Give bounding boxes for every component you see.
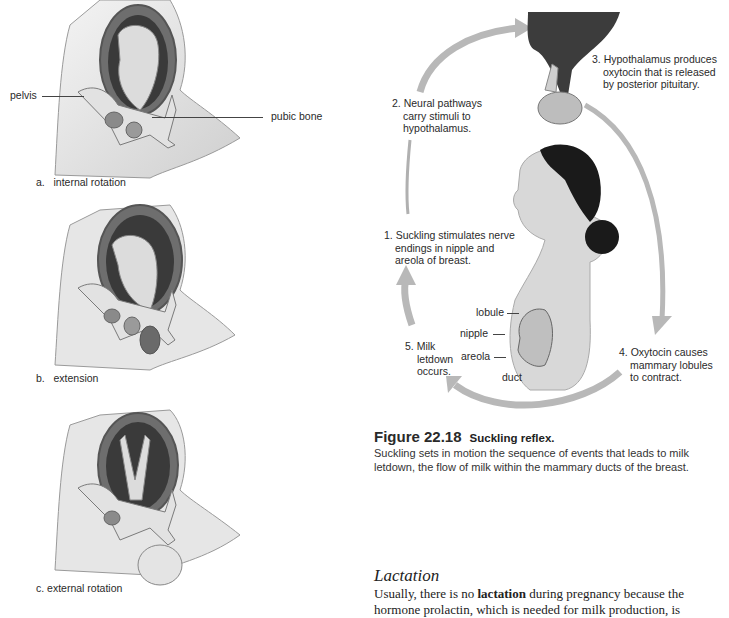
figure-caption: Figure 22.18Suckling reflex. Suckling se… [374,428,724,474]
figure-description-line-2: letdown, the flow of milk within the mam… [374,460,724,474]
section-paragraph: Usually, there is no lactation during pr… [374,586,729,602]
label-areola: areola [461,350,490,363]
lactation-section: Lactation Usually, there is no lactation… [374,566,729,618]
leader-line-lobule [507,313,519,314]
step-1-text: 1. Suckling stimulates nerve endings in … [384,229,515,267]
arrow-to-hypothalamus [420,28,520,92]
pituitary-illustration [538,92,582,124]
figure-number: Figure 22.18 [374,428,462,445]
label-duct: duct [502,371,522,384]
step-5-text: 5. Milk letdown occurs. [405,340,453,378]
term-lactation: lactation [478,586,526,601]
step-3-text: 3. Hypothalamus produces oxytocin that i… [592,53,717,91]
figure-title-line: Figure 22.18Suckling reflex. [374,428,724,446]
leader-line-nipple [493,334,505,335]
section-heading: Lactation [374,566,729,586]
woman-illustration [510,145,619,390]
step-4-text: 4. Oxytocin causes mammary lobules to co… [619,346,713,384]
figure-description-line-1: Suckling sets in motion the sequence of … [374,446,724,460]
section-paragraph-line-2: hormone prolactin, which is needed for m… [374,602,729,618]
step-2-text: 2. Neural pathways carry stimuli to hypo… [392,97,482,135]
arrow-to-step1 [405,278,412,325]
label-nipple: nipple [460,327,488,340]
figure-title: Suckling reflex. [470,432,555,444]
leader-line-areola [494,357,506,358]
label-lobule: lobule [476,306,504,319]
